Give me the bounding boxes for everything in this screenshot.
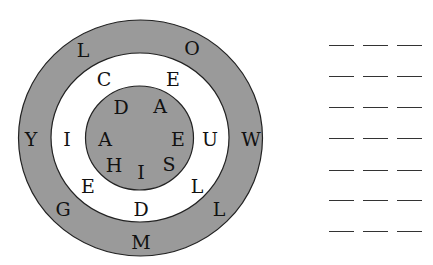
answer-blank-r2-c1 xyxy=(329,76,354,77)
answer-blank-r1-c1 xyxy=(329,45,354,46)
answer-blank-r5-c3 xyxy=(397,170,422,171)
answer-blank-r7-c2 xyxy=(363,231,388,232)
answer-blank-r4-c3 xyxy=(397,138,422,139)
answer-blank-r7-c3 xyxy=(397,231,422,232)
answer-blanks xyxy=(0,0,433,265)
answer-blank-r7-c1 xyxy=(329,231,354,232)
answer-blank-r1-c3 xyxy=(397,45,422,46)
answer-blank-r5-c2 xyxy=(363,170,388,171)
answer-blank-r4-c1 xyxy=(329,138,354,139)
answer-blank-r3-c1 xyxy=(329,107,354,108)
answer-blank-r4-c2 xyxy=(363,138,388,139)
answer-blank-r2-c3 xyxy=(397,76,422,77)
answer-blank-r1-c2 xyxy=(363,45,388,46)
answer-blank-r3-c3 xyxy=(397,107,422,108)
answer-blank-r3-c2 xyxy=(363,107,388,108)
answer-blank-r6-c3 xyxy=(397,200,422,201)
answer-blank-r2-c2 xyxy=(363,76,388,77)
answer-blank-r6-c2 xyxy=(363,200,388,201)
answer-blank-r5-c1 xyxy=(329,170,354,171)
answer-blank-r6-c1 xyxy=(329,200,354,201)
